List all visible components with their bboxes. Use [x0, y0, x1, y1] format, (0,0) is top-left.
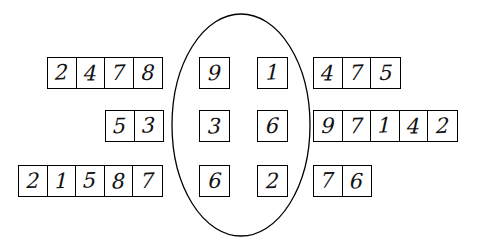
digit-value: 4	[83, 63, 97, 84]
digit-cell: 9	[200, 58, 229, 88]
digit-cell: 7	[343, 58, 372, 88]
digit-cell: 7	[343, 111, 372, 141]
digit-value: 5	[379, 62, 393, 83]
digit-cell: 7	[133, 166, 162, 196]
left-digit-strip: 53	[105, 110, 164, 142]
digit-cell: 4	[400, 111, 429, 141]
digit-value: 3	[142, 115, 156, 137]
digit-row: 533697142	[0, 110, 491, 142]
digit-cell: 8	[134, 58, 163, 88]
digit-value: 4	[407, 116, 421, 137]
digit-value: 6	[265, 115, 279, 137]
digit-value: 5	[83, 170, 97, 192]
digit-cell: 5	[76, 166, 105, 196]
digit-cell: 2	[428, 111, 457, 141]
digit-cell: 3	[200, 111, 229, 141]
circled-digit-cell: 1	[257, 57, 288, 89]
digit-value: 1	[378, 115, 392, 137]
digit-value: 7	[321, 170, 335, 192]
digit-value: 8	[142, 62, 156, 83]
digit-cell: 6	[343, 166, 372, 196]
left-digit-strip: 21587	[18, 165, 163, 197]
digit-cell: 1	[48, 166, 77, 196]
digit-cell: 2	[258, 166, 287, 196]
circled-digit-cell: 2	[257, 165, 288, 197]
right-digit-strip: 97142	[313, 110, 458, 142]
digit-cell: 7	[105, 58, 134, 88]
digit-row: 247891475	[0, 57, 491, 89]
digit-value: 2	[26, 170, 40, 191]
digit-value: 7	[112, 62, 126, 84]
digit-value: 8	[112, 171, 126, 192]
digit-value: 7	[141, 170, 155, 192]
digit-cell: 6	[258, 111, 287, 141]
digit-value: 6	[208, 170, 222, 191]
digit-value: 4	[321, 63, 335, 84]
digit-value: 2	[436, 115, 450, 137]
digit-cell: 6	[200, 166, 229, 196]
digit-value: 1	[54, 170, 68, 191]
digit-cell: 1	[258, 58, 287, 88]
digit-cell: 4	[77, 58, 106, 88]
digit-cell: 2	[48, 58, 77, 88]
digit-value: 6	[350, 171, 364, 192]
digit-cell: 5	[371, 58, 400, 88]
digit-value: 3	[207, 116, 221, 137]
circled-digit-cell: 3	[199, 110, 230, 142]
circled-digit-cell: 6	[199, 165, 230, 197]
digit-cell: 3	[135, 111, 164, 141]
digit-cell: 7	[314, 166, 343, 196]
digit-value: 5	[113, 115, 127, 136]
right-digit-strip: 475	[313, 57, 401, 89]
digit-cell: 5	[106, 111, 135, 141]
digit-value: 1	[265, 62, 279, 84]
figure-canvas: 247891475533697142215876276	[0, 0, 491, 252]
digit-cell: 4	[314, 58, 343, 88]
circled-digit-cell: 6	[257, 110, 288, 142]
right-digit-strip: 76	[313, 165, 372, 197]
digit-value: 2	[265, 170, 279, 191]
digit-cell: 8	[105, 166, 134, 196]
digit-value: 9	[321, 115, 335, 136]
digit-value: 9	[207, 62, 221, 83]
digit-value: 7	[349, 115, 363, 136]
left-digit-strip: 2478	[47, 57, 163, 89]
digit-row: 215876276	[0, 165, 491, 197]
digit-value: 7	[349, 62, 363, 84]
digit-cell: 1	[371, 111, 400, 141]
digit-value: 2	[55, 62, 69, 84]
digit-cell: 2	[19, 166, 48, 196]
circled-digit-cell: 9	[199, 57, 230, 89]
digit-cell: 9	[314, 111, 343, 141]
